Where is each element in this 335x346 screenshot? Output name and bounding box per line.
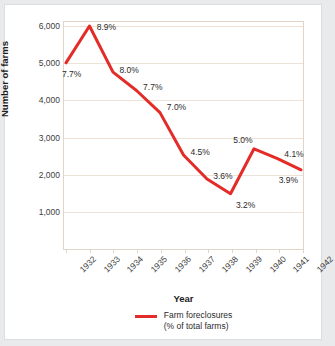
x-axis-tick-mark xyxy=(208,249,209,253)
plot-area: 6,0005,0004,0003,0002,0001,000 193219331… xyxy=(63,21,304,250)
series-line-group xyxy=(64,22,303,249)
chart-legend: Farm foreclosures (% of total farms) xyxy=(63,310,304,331)
x-axis-tick-mark xyxy=(161,249,162,253)
x-axis-tick-label: 1938 xyxy=(220,254,240,274)
x-axis-tick-label: 1933 xyxy=(101,254,121,274)
legend-line-swatch xyxy=(135,315,157,318)
data-point-label: 4.1% xyxy=(284,149,303,159)
x-axis-tick-label: 1942 xyxy=(315,254,335,274)
line-chart-figure: Number of farms 6,0005,0004,0003,0002,00… xyxy=(5,5,323,341)
x-axis-tick-mark xyxy=(185,249,186,253)
y-axis-title: Number of farms xyxy=(0,41,10,117)
legend-label: Farm foreclosures (% of total farms) xyxy=(164,310,233,331)
x-axis-tick-mark xyxy=(232,249,233,253)
y-axis-tick-label: 2,000 xyxy=(39,170,60,180)
data-point-label: 7.7% xyxy=(143,82,162,92)
x-axis-tick-mark xyxy=(279,249,280,253)
x-axis-tick-label: 1940 xyxy=(267,254,287,274)
x-axis-tick-label: 1937 xyxy=(196,254,216,274)
x-axis-tick-mark xyxy=(90,249,91,253)
x-axis-tick-mark xyxy=(256,249,257,253)
x-axis-tick-mark xyxy=(137,249,138,253)
legend-label-line-2: (% of total farms) xyxy=(164,321,233,332)
x-axis-tick-label: 1934 xyxy=(125,254,145,274)
x-axis-tick-mark xyxy=(303,249,304,253)
x-axis-tick-mark xyxy=(113,249,114,253)
chart-card: Number of farms 6,0005,0004,0003,0002,00… xyxy=(4,4,322,340)
y-axis-tick-label: 3,000 xyxy=(39,133,60,143)
data-point-label: 5.0% xyxy=(233,135,252,145)
data-point-label: 3.9% xyxy=(279,175,298,185)
y-axis-tick-label: 1,000 xyxy=(39,207,60,217)
x-axis-tick-mark xyxy=(66,249,67,253)
legend-label-line-1: Farm foreclosures xyxy=(164,310,233,321)
data-point-label: 4.5% xyxy=(191,147,210,157)
y-axis-tick-label: 5,000 xyxy=(39,58,60,68)
data-point-label: 3.6% xyxy=(213,171,232,181)
y-axis-tick-label: 4,000 xyxy=(39,95,60,105)
data-point-label: 8.9% xyxy=(97,22,116,32)
data-point-label: 3.2% xyxy=(236,200,255,210)
x-axis-tick-label: 1932 xyxy=(78,254,98,274)
x-axis-tick-label: 1936 xyxy=(172,254,192,274)
data-point-label: 8.0% xyxy=(119,65,138,75)
x-axis-title: Year xyxy=(63,293,304,304)
data-point-label: 7.7% xyxy=(62,69,81,79)
x-axis-tick-label: 1935 xyxy=(149,254,169,274)
data-point-label: 7.0% xyxy=(167,102,186,112)
x-axis-tick-label: 1939 xyxy=(243,254,263,274)
y-axis-tick-label: 6,000 xyxy=(39,21,60,31)
x-axis-tick-label: 1941 xyxy=(291,254,311,274)
